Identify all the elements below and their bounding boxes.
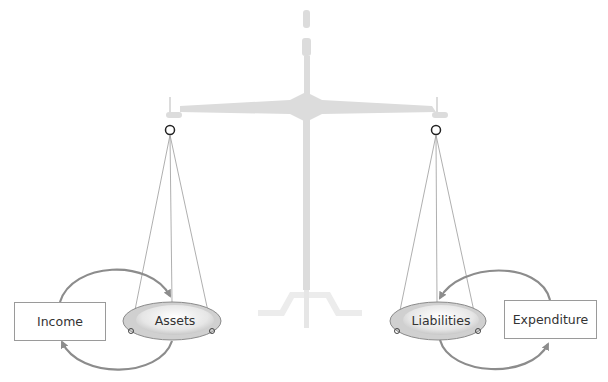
income-label: Income — [37, 314, 83, 329]
expenditure-label: Expenditure — [513, 312, 589, 327]
scale-base — [258, 292, 362, 316]
left-pan-strings — [131, 135, 212, 330]
assets-label-wrap: Assets — [136, 308, 214, 332]
assets-label: Assets — [155, 313, 196, 328]
expenditure-box: Expenditure — [504, 300, 597, 339]
liabilities-label: Liabilities — [411, 313, 470, 328]
arrow-liabilities-to-expenditure — [440, 340, 548, 369]
left-hook-icon — [166, 126, 175, 135]
right-pan-strings — [396, 135, 478, 330]
arrow-assets-to-income — [62, 341, 172, 370]
income-box: Income — [14, 302, 106, 341]
scale-post — [302, 10, 311, 328]
scale-beam — [166, 92, 448, 122]
liabilities-label-wrap: Liabilities — [402, 308, 480, 332]
right-hook-icon — [432, 126, 441, 135]
arrow-expenditure-to-liabilities — [440, 271, 550, 301]
arrow-income-to-assets — [60, 270, 170, 302]
